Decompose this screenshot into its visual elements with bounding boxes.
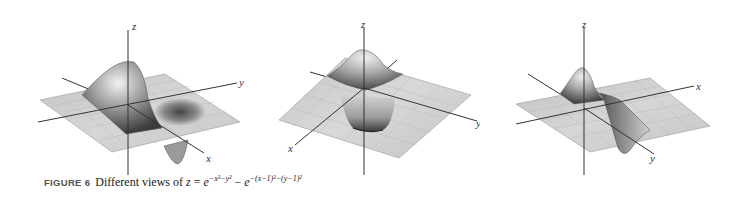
axis-label-z: z: [581, 18, 587, 30]
axis-label-y: y: [649, 152, 655, 164]
caption-text: Different views of: [95, 175, 183, 190]
figure-number: FIGURE 6: [44, 177, 90, 188]
axis-y-back: [528, 74, 560, 94]
axis-label-x: x: [287, 142, 293, 154]
eq-term2-exponent: −(x−1)²−(y−1)²: [250, 174, 302, 183]
eq-term1-exponent: −x²−y²: [209, 174, 232, 183]
axis-label-x: x: [695, 80, 701, 92]
surface-plot-view-3: z x y: [500, 0, 737, 175]
surface-plot-view-1: z y x: [30, 0, 245, 175]
eq-equals: =: [194, 175, 201, 189]
axis-label-y: y: [475, 117, 480, 129]
eq-lhs: z: [186, 175, 191, 189]
axis-label-x: x: [205, 152, 211, 164]
surface-plot-view-2: z y x: [265, 0, 480, 175]
axis-label-z: z: [131, 20, 137, 32]
axis-label-y: y: [238, 76, 244, 88]
figure-caption: FIGURE 6 Different views of z=e−x²−y²−e−…: [44, 174, 302, 194]
surface-plot-2-graphic: z y x: [265, 0, 480, 175]
axis-label-z: z: [360, 18, 366, 30]
eq-minus: −: [234, 175, 241, 189]
surface-plot-3-graphic: z x y: [500, 0, 737, 175]
surface-pit: [154, 98, 206, 126]
surface-pit-underside: [164, 140, 188, 164]
surface-plot-1-graphic: z y x: [30, 0, 245, 175]
caption-equation: z=e−x²−y²−e−(x−1)²−(y−1)²: [186, 174, 302, 190]
surface-peak: [560, 68, 604, 104]
